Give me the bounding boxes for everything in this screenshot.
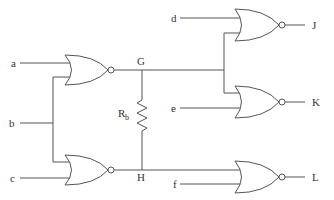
label-f: f <box>173 178 177 190</box>
nor-gate-3 <box>235 9 285 41</box>
nor-gate-1 <box>65 55 114 85</box>
label-resistor-subscript: b <box>125 113 129 122</box>
label-a: a <box>11 57 16 69</box>
nor-gate-2 <box>65 155 114 185</box>
label-j: J <box>312 19 317 31</box>
resistor-rb <box>137 98 147 133</box>
label-e: e <box>171 102 176 114</box>
label-d: d <box>171 12 177 24</box>
label-h: H <box>137 171 145 183</box>
wire-g-branch <box>224 33 240 93</box>
nor-gate-4 <box>235 86 285 118</box>
wire-b-branch <box>53 77 70 162</box>
label-b: b <box>9 117 15 129</box>
label-c: c <box>10 172 15 184</box>
nor-gate-5 <box>235 161 285 193</box>
label-g: G <box>137 55 145 67</box>
nor-circuit-diagram: a b c d e f G H J K L R b <box>0 0 334 200</box>
label-k: K <box>312 96 320 108</box>
label-l: L <box>312 171 319 183</box>
